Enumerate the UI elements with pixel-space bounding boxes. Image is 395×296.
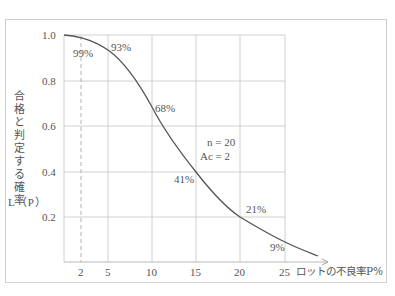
y-tick-0-8: 0.8 <box>42 75 56 87</box>
x-tick-2: 2 <box>78 266 84 278</box>
x-axis-title: ロットの不良率P% <box>296 263 383 278</box>
y-axis-symbol: L（P） <box>8 193 47 209</box>
annotation-93pct: 93% <box>111 41 131 53</box>
oc-curve <box>64 35 318 256</box>
annotation-21pct: 21% <box>246 203 266 215</box>
y-tick-0-4: 0.4 <box>42 166 56 178</box>
annotation-99pct: 99% <box>73 47 93 59</box>
oc-curve-chart: 1.0 0.8 0.6 0.4 0.2 2 5 10 15 20 25 99% … <box>0 0 395 296</box>
grid-lines <box>64 35 285 262</box>
x-tick-15: 15 <box>190 266 202 278</box>
y-tick-0-6: 0.6 <box>42 120 56 132</box>
annotation-41pct: 41% <box>174 173 194 185</box>
x-tick-5: 5 <box>105 266 111 278</box>
y-tick-1-0: 1.0 <box>42 29 56 41</box>
param-n: n = 20 <box>207 136 236 148</box>
param-ac: Ac = 2 <box>200 150 230 162</box>
x-tick-25: 25 <box>279 266 291 278</box>
x-tick-10: 10 <box>146 266 158 278</box>
y-tick-0-2: 0.2 <box>42 211 56 223</box>
x-tick-20: 20 <box>234 266 246 278</box>
annotation-9pct: 9% <box>270 241 285 253</box>
annotation-68pct: 68% <box>155 102 175 114</box>
y-axis-title: 合格と判定する確率 <box>12 90 26 207</box>
